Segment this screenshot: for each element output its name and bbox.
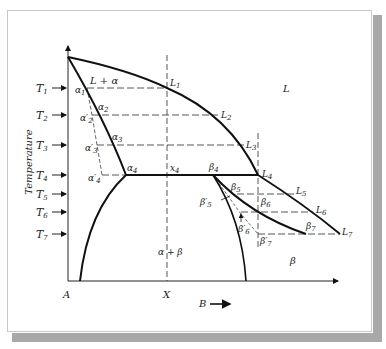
svg-text:L1: L1 xyxy=(169,78,180,90)
svg-text:L2: L2 xyxy=(220,110,232,122)
svg-text:α′3: α′3 xyxy=(85,143,98,155)
temperature-ticks xyxy=(52,88,66,234)
temperature-labels: T1 T2 T3 T4 T5 T6 T7 xyxy=(36,82,48,242)
svg-text:T1: T1 xyxy=(36,82,48,96)
region-liquid: L xyxy=(282,83,290,94)
point-labels: L1 L2 L3 L4 L5 L6 L7 α1 α2 α3 α4 α′2 α′3… xyxy=(75,78,353,248)
svg-text:L3: L3 xyxy=(245,140,257,152)
svg-text:β′5: β′5 xyxy=(199,197,212,209)
svg-text:T7: T7 xyxy=(36,228,48,242)
svg-text:T6: T6 xyxy=(36,206,48,220)
region-liquid-alpha: L + α xyxy=(89,75,118,86)
region-alpha-beta: α + β xyxy=(158,247,183,257)
y-axis-label: Temperature xyxy=(23,129,34,195)
svg-text:β6: β6 xyxy=(260,197,271,209)
region-beta: β xyxy=(289,255,296,266)
svg-text:α′4: α′4 xyxy=(88,173,101,185)
svg-text:L5: L5 xyxy=(295,186,307,198)
svg-text:β4: β4 xyxy=(208,162,219,174)
phase-diagram: Temperature T1 T2 T3 T4 T5 T6 T7 L + α L… xyxy=(0,0,386,349)
svg-text:x4: x4 xyxy=(170,163,180,175)
svg-text:β7: β7 xyxy=(305,221,316,233)
axis-label-x: X xyxy=(162,289,171,300)
svg-text:T5: T5 xyxy=(36,188,48,202)
svg-text:L7: L7 xyxy=(341,227,353,239)
solidus-beta xyxy=(213,175,306,234)
svg-text:T2: T2 xyxy=(36,109,48,123)
solvus-alpha xyxy=(80,175,126,281)
svg-text:α3: α3 xyxy=(112,132,123,144)
svg-text:α2: α2 xyxy=(98,102,109,114)
svg-text:β′7: β′7 xyxy=(259,236,272,248)
svg-text:α′2: α′2 xyxy=(80,113,93,125)
svg-text:L4: L4 xyxy=(261,169,272,181)
axis-label-a: A xyxy=(62,289,70,300)
axis-label-b: B xyxy=(198,298,206,309)
svg-text:α4: α4 xyxy=(127,163,138,175)
svg-text:T4: T4 xyxy=(36,169,48,183)
svg-text:T3: T3 xyxy=(36,139,48,153)
tie-lines xyxy=(87,88,340,234)
